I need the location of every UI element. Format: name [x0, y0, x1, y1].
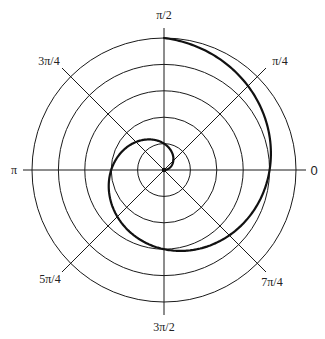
label-angle-45: π/4 — [272, 54, 287, 68]
label-angle-135: 3π/4 — [38, 54, 59, 68]
label-angle-225: 5π/4 — [39, 272, 60, 286]
label-angle-270: 3π/2 — [153, 320, 174, 334]
label-angle-0: 0 — [310, 163, 317, 178]
polar-plot: π/2 3π/4 π/4 π 0 5π/4 7π/4 3π/2 — [0, 0, 325, 339]
label-angle-180: π — [11, 163, 17, 177]
label-angle-90: π/2 — [156, 8, 171, 22]
label-angle-315: 7π/4 — [261, 275, 282, 289]
